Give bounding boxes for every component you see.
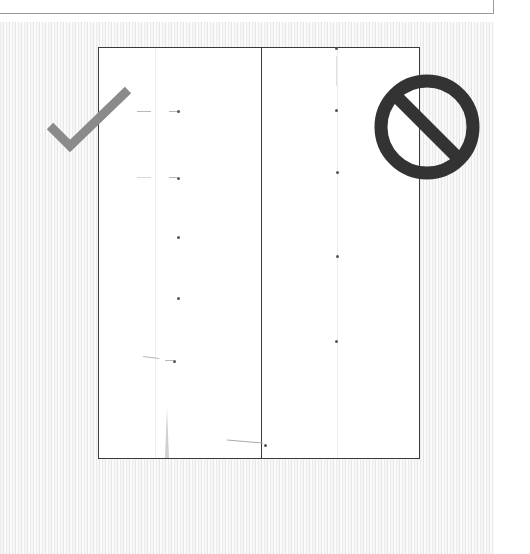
dash	[169, 111, 177, 112]
marker-dot	[177, 177, 180, 180]
guide-line	[155, 48, 156, 458]
marker-dot	[335, 340, 338, 343]
marker-dot	[177, 297, 180, 300]
marker-dot	[336, 171, 339, 174]
check-mark-icon	[44, 84, 134, 156]
marker-dot	[336, 255, 339, 258]
dash	[137, 111, 151, 112]
dash	[336, 56, 337, 86]
dash	[165, 360, 173, 361]
marker-dot	[177, 236, 180, 239]
prohibited-icon	[372, 72, 482, 182]
top-bar	[0, 0, 494, 14]
marker-dot	[264, 444, 267, 447]
marker-dot	[177, 110, 180, 113]
marker-dot	[335, 109, 338, 112]
dash	[169, 177, 177, 178]
dash	[137, 177, 151, 178]
spike	[165, 408, 169, 458]
marker-dot	[335, 47, 338, 50]
marker-dot	[173, 360, 176, 363]
dash	[143, 356, 159, 359]
